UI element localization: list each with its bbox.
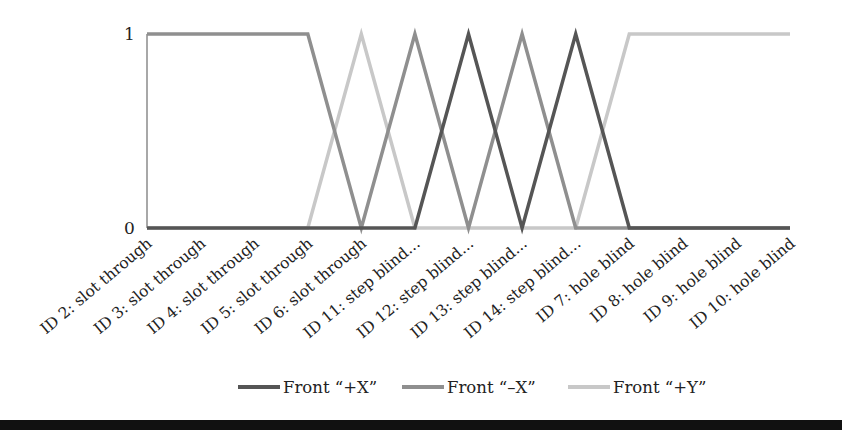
series-lines — [147, 34, 790, 228]
x-tick-labels: ID 2: slot throughID 3: slot throughID 4… — [37, 234, 799, 342]
y-tick-0: 0 — [124, 218, 135, 238]
series-line-0 — [147, 34, 790, 228]
legend-label: Front “+Y” — [613, 378, 706, 397]
series-line-2 — [147, 34, 790, 228]
bottom-rule — [0, 420, 842, 430]
legend-label: Front “+X” — [283, 378, 377, 397]
series-line-1 — [147, 34, 790, 228]
line-chart: 1 0 ID 2: slot throughID 3: slot through… — [0, 0, 842, 430]
legend-label: Front “–X” — [447, 378, 536, 397]
y-tick-1: 1 — [124, 24, 135, 44]
axes: 1 0 — [124, 24, 147, 238]
legend: Front “+X”Front “–X”Front “+Y” — [238, 378, 706, 397]
